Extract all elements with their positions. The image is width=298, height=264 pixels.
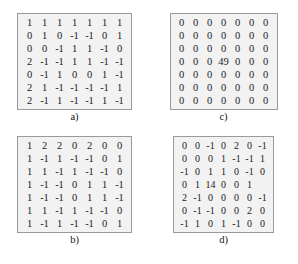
matrix-cell: -1: [112, 68, 127, 81]
matrix-cell: -1: [82, 152, 97, 165]
matrix-cell: 1: [67, 204, 82, 217]
matrix-cell: 1: [22, 217, 37, 230]
matrix-cell: 0: [189, 16, 203, 29]
matrix-cell: 0: [245, 29, 259, 42]
matrix-row: 1-1-1011-1: [22, 178, 127, 191]
matrix-cell: -1: [97, 165, 112, 178]
matrix-cell: -1: [230, 152, 243, 165]
matrix-cell: 0: [178, 152, 191, 165]
matrix-cell: 1: [97, 94, 112, 107]
matrix-cell: -1: [52, 165, 67, 178]
matrix-cell: 14: [204, 178, 217, 191]
matrix-cell: -1: [230, 217, 243, 230]
matrix-cell: 1: [112, 152, 127, 165]
matrix-cell: 1: [97, 191, 112, 204]
panel-caption-b: b): [70, 234, 79, 246]
matrix-row: 00049000: [175, 55, 273, 68]
matrix-cell: -1: [67, 152, 82, 165]
matrix-cell: 0: [191, 152, 204, 165]
matrix-cell: 2: [230, 139, 243, 152]
matrix-body-b: 12202001-11-1-10111-11-1-101-1-1011-11-1…: [22, 139, 127, 230]
matrix-cell: 1: [67, 55, 82, 68]
matrix-cell: 1: [256, 152, 269, 165]
matrix-cell: -1: [112, 191, 127, 204]
matrix-cell: 0: [175, 42, 189, 55]
matrix-cell: 0: [245, 55, 259, 68]
matrix-cell: 1: [217, 165, 230, 178]
matrix-row: 00-111-10: [22, 42, 127, 55]
matrix-cell: -1: [67, 81, 82, 94]
matrix-cell: 0: [203, 29, 217, 42]
matrix-cell: 0: [175, 29, 189, 42]
matrix-row: 0000000: [175, 68, 273, 81]
matrix-cell: 2: [22, 55, 37, 68]
matrix-cell: 1: [52, 68, 67, 81]
matrix-cell: -1: [82, 94, 97, 107]
matrix-cell: 1: [82, 55, 97, 68]
matrix-cell: 1: [67, 42, 82, 55]
matrix-cell: -1: [112, 55, 127, 68]
matrix-cell: 1: [67, 16, 82, 29]
matrix-cell: -1: [82, 29, 97, 42]
matrix-cell: 0: [256, 165, 269, 178]
matrix-cell: 0: [203, 42, 217, 55]
matrix-box-c: 0000000000000000000000004900000000000000…: [170, 13, 278, 110]
matrix-cell: 0: [259, 94, 273, 107]
matrix-cell: 0: [217, 68, 231, 81]
matrix-cell: 2: [22, 81, 37, 94]
matrix-cell: 0: [191, 139, 204, 152]
matrix-cell: 0: [203, 16, 217, 29]
matrix-cell: 1: [82, 16, 97, 29]
matrix-cell: 0: [178, 204, 191, 217]
matrix-cell: 0: [243, 139, 256, 152]
matrix-cell: 1: [112, 81, 127, 94]
matrix-cell: 0: [245, 81, 259, 94]
matrix-cell: -1: [37, 178, 52, 191]
matrix-cell: 0: [112, 204, 127, 217]
matrix-cell: 1: [22, 191, 37, 204]
matrix-cell: 0: [259, 55, 273, 68]
panel-c: 0000000000000000000000004900000000000000…: [149, 0, 298, 132]
matrix-cell: 0: [203, 55, 217, 68]
matrix-body-a: 1111111010-1-10100-111-102-1-111-1-10-11…: [22, 16, 127, 107]
matrix-table-a: 1111111010-1-10100-111-102-1-111-1-10-11…: [22, 16, 127, 107]
matrix-cell: -1: [178, 217, 191, 230]
matrix-cell: 0: [245, 42, 259, 55]
matrix-cell: 0: [112, 139, 127, 152]
matrix-table-d: 00-1020-10001-1-11-10110-1001140012-1000…: [178, 139, 269, 230]
matrix-row: 1-1-1011-1: [22, 191, 127, 204]
matrix-row: 1220200: [22, 139, 127, 152]
matrix-cell: -1: [37, 191, 52, 204]
matrix-row: -1101-100: [178, 217, 269, 230]
matrix-cell: 0: [204, 191, 217, 204]
panel-d: 00-1020-10001-1-11-10110-1001140012-1000…: [149, 132, 298, 264]
matrix-cell: 49: [217, 55, 231, 68]
matrix-row: 11-11-1-10: [22, 165, 127, 178]
matrix-cell: -1: [52, 191, 67, 204]
matrix-row: 0114001: [178, 178, 269, 191]
matrix-cell: 1: [22, 139, 37, 152]
matrix-cell: 1: [112, 217, 127, 230]
matrix-cell: 0: [231, 16, 245, 29]
matrix-table-c: 0000000000000000000000004900000000000000…: [175, 16, 273, 107]
matrix-cell: -1: [67, 94, 82, 107]
matrix-row: 0000000: [175, 81, 273, 94]
matrix-cell: 1: [37, 204, 52, 217]
figure-sheet: 1111111010-1-10100-111-102-1-111-1-10-11…: [0, 0, 298, 264]
matrix-cell: -1: [191, 191, 204, 204]
matrix-row: 1111111: [22, 16, 127, 29]
matrix-body-d: 00-1020-10001-1-11-10110-1001140012-1000…: [178, 139, 269, 230]
matrix-cell: 0: [175, 94, 189, 107]
matrix-row: 2-11-1-11-1: [22, 94, 127, 107]
matrix-cell: 1: [243, 178, 256, 191]
matrix-cell: 1: [22, 178, 37, 191]
matrix-cell: -1: [37, 152, 52, 165]
matrix-cell: 0: [175, 81, 189, 94]
matrix-cell: 0: [189, 94, 203, 107]
matrix-cell: 0: [256, 204, 269, 217]
matrix-cell: 1: [191, 217, 204, 230]
matrix-cell: 1: [37, 165, 52, 178]
matrix-box-b: 12202001-11-1-10111-11-1-101-1-1011-11-1…: [17, 136, 132, 233]
matrix-cell: 0: [22, 42, 37, 55]
matrix-cell: 1: [52, 152, 67, 165]
